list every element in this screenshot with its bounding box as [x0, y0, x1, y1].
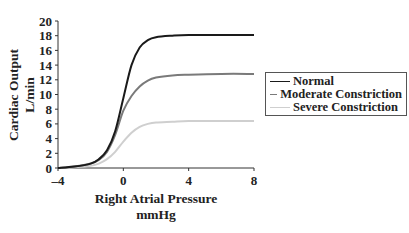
legend-swatch-moderate — [270, 94, 277, 95]
y-tick-label: 2 — [46, 146, 53, 161]
x-axis-unit: mmHg — [136, 207, 176, 222]
series-line-normal — [58, 35, 254, 168]
y-tick-label: 10 — [39, 87, 52, 102]
y-tick-label: 6 — [46, 116, 53, 131]
legend-item-severe: Severe Constriction — [270, 101, 402, 114]
legend-swatch-severe — [270, 107, 290, 108]
x-tick-label: 8 — [251, 173, 258, 188]
chart-legend: Normal Moderate Constriction Severe Cons… — [265, 72, 407, 116]
x-axis-title: Right Atrial Pressure — [95, 191, 218, 206]
y-tick-label: 16 — [39, 43, 53, 58]
y-axis-title: Cardiac Output — [6, 49, 21, 141]
chart-plot: 02468101214161820 –4048 Cardiac Output L… — [0, 0, 409, 233]
legend-swatch-normal — [270, 81, 290, 82]
y-tick-label: 18 — [39, 28, 53, 43]
series-line-severe-constriction — [58, 121, 254, 168]
y-tick-label: 12 — [39, 72, 52, 87]
y-axis-unit: L/min — [22, 77, 37, 113]
legend-label: Severe Constriction — [293, 100, 398, 115]
y-tick-label: 20 — [39, 14, 52, 29]
x-tick-label: 0 — [120, 173, 127, 188]
y-tick-label: 8 — [46, 102, 53, 117]
y-tick-label: 14 — [39, 58, 53, 73]
x-tick-label: –4 — [51, 173, 66, 188]
x-axis-ticks: –4048 — [51, 168, 258, 188]
y-tick-label: 4 — [46, 131, 53, 146]
y-axis-ticks: 02468101214161820 — [39, 14, 58, 176]
data-series — [58, 35, 254, 168]
x-tick-label: 4 — [185, 173, 192, 188]
